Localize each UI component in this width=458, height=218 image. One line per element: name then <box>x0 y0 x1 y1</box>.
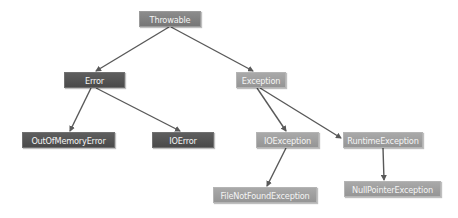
edge-throwable-error <box>96 27 169 71</box>
edge-runtimeexception-nullpointerexception <box>383 148 384 180</box>
edge-throwable-exception <box>171 27 253 71</box>
node-outofmemoryerror: OutOfMemoryError <box>22 132 115 148</box>
node-filenotfoundexception: FileNotFoundException <box>213 187 317 203</box>
node-runtimeexception: RuntimeException <box>343 132 423 148</box>
node-throwable: Throwable <box>139 11 201 27</box>
edge-exception-runtimeexception <box>260 88 341 138</box>
edge-ioexception-filenotfoundexception <box>267 148 286 186</box>
node-nullpointerexception: NullPointerException <box>344 181 441 197</box>
node-ioexception: IOException <box>256 132 319 148</box>
edge-error-outofmemoryerror <box>70 88 91 131</box>
node-ioerror: IOError <box>152 132 214 148</box>
node-error: Error <box>64 72 125 88</box>
node-exception: Exception <box>236 72 286 88</box>
edge-error-ioerror <box>96 88 180 131</box>
